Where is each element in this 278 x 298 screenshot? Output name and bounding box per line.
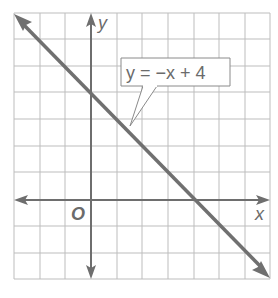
equation-label: y = −x + 4 (126, 63, 206, 83)
y-axis-label: y (96, 13, 108, 33)
line-lower-arrow-icon (252, 261, 270, 278)
origin-label: O (71, 204, 85, 224)
coordinate-plane: y x O y = −x + 4 (0, 0, 278, 298)
x-axis-label: x (254, 204, 265, 224)
